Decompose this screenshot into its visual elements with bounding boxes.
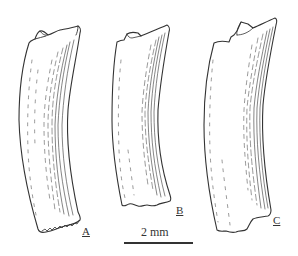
specimen-drawings — [0, 0, 298, 256]
specimen-a-label: A — [82, 226, 90, 237]
specimen-a-drawing — [19, 26, 80, 232]
scale-bar-label: 2 mm — [141, 226, 169, 238]
specimen-c-drawing — [204, 18, 277, 232]
scale-bar — [124, 242, 193, 244]
specimen-c-label: C — [273, 215, 280, 226]
specimen-figure: A B C 2 mm — [0, 0, 298, 256]
specimen-b-label: B — [176, 205, 183, 216]
specimen-b-drawing — [112, 25, 171, 206]
